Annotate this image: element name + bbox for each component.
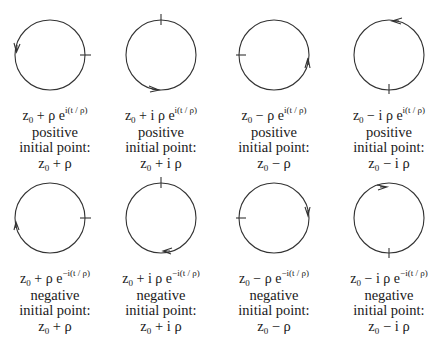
initial-point-label: initial point:: [219, 302, 329, 318]
circle-bottom-3: [236, 183, 310, 253]
initial-point-value: z0 − i ρ: [334, 318, 441, 339]
circle-top-1: [14, 20, 91, 90]
initial-point-label: initial point:: [106, 139, 216, 155]
circle-top-2: [126, 14, 196, 92]
point-rest: − i ρ: [379, 155, 409, 171]
orientation-label: negative: [219, 287, 329, 303]
circle-bottom-1: [14, 183, 91, 253]
initial-point-value: z0 + ρ: [0, 155, 110, 176]
formula-exponent: i(t / ρ): [175, 105, 198, 115]
formula-exponent: i(t / ρ): [284, 105, 307, 115]
formula-body: − i ρ e: [361, 271, 400, 286]
arrow-icon: [377, 185, 387, 190]
circle-top-4: [354, 18, 424, 94]
formula-exponent: −i(t / ρ): [400, 268, 428, 278]
formula-body: + ρ e: [33, 108, 65, 123]
point-rest: + i ρ: [151, 155, 181, 171]
formula-exponent: −i(t / ρ): [172, 268, 200, 278]
orientation-label: positive: [334, 124, 441, 140]
point-rest: + ρ: [49, 318, 72, 334]
formula-body: + ρ e: [31, 271, 63, 286]
point-rest: − i ρ: [379, 318, 409, 334]
formula-body: + i ρ e: [136, 108, 175, 123]
orientation-label: negative: [106, 287, 216, 303]
formula-exponent: −i(t / ρ): [62, 268, 90, 278]
orientation-label: positive: [0, 124, 110, 140]
initial-point-value: z0 − ρ: [219, 155, 329, 176]
formula-exponent: i(t / ρ): [403, 105, 426, 115]
initial-point-label: initial point:: [106, 302, 216, 318]
formula-body: − i ρ e: [364, 108, 403, 123]
formula-exponent: −i(t / ρ): [281, 268, 309, 278]
arrow-icon: [149, 86, 159, 92]
orientation-label: positive: [106, 124, 216, 140]
initial-point-value: z0 + ρ: [0, 318, 110, 339]
orientation-label: negative: [0, 287, 110, 303]
circle-top-3: [236, 20, 310, 90]
point-rest: + ρ: [49, 155, 72, 171]
arrow-icon: [392, 18, 402, 24]
point-rest: − ρ: [268, 155, 291, 171]
initial-point-value: z0 + i ρ: [106, 155, 216, 176]
formula-body: − ρ e: [250, 271, 282, 286]
point-rest: − ρ: [268, 318, 291, 334]
circle-bottom-2: [126, 177, 196, 254]
initial-point-value: z0 − ρ: [219, 318, 329, 339]
orientation-label: positive: [219, 124, 329, 140]
initial-point-value: z0 + i ρ: [106, 318, 216, 339]
orientation-label: negative: [334, 287, 441, 303]
initial-point-label: initial point:: [0, 302, 110, 318]
initial-point-label: initial point:: [334, 139, 441, 155]
formula-body: − ρ e: [252, 108, 284, 123]
initial-point-label: initial point:: [0, 139, 110, 155]
initial-point-label: initial point:: [219, 139, 329, 155]
initial-point-value: z0 − i ρ: [334, 155, 441, 176]
point-rest: + i ρ: [151, 318, 181, 334]
initial-point-label: initial point:: [334, 302, 441, 318]
formula-exponent: i(t / ρ): [65, 105, 88, 115]
circle-bottom-4: [354, 183, 424, 258]
formula-body: + i ρ e: [133, 271, 172, 286]
